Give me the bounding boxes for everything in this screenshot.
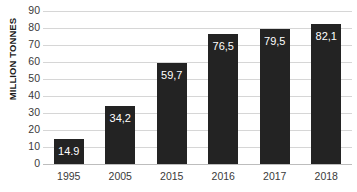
bar-data-label: 76,5 <box>208 40 238 52</box>
bar-data-label: 34,2 <box>105 112 135 124</box>
x-axis-tick-label: 2017 <box>249 170 301 183</box>
gridline <box>43 164 352 165</box>
y-axis-tick-label: 20 <box>18 124 40 135</box>
x-axis-tick-label: 2005 <box>95 170 147 183</box>
x-axis-tick-label: 1995 <box>43 170 95 183</box>
y-axis-tick-label: 80 <box>18 22 40 33</box>
y-axis-tick-label: 50 <box>18 73 40 84</box>
bar-data-label: 82,1 <box>311 30 341 42</box>
y-axis-tick-label: 60 <box>18 56 40 67</box>
x-axis-tick-label: 2018 <box>301 170 353 183</box>
y-axis-tick-label: 30 <box>18 107 40 118</box>
bar: 59,7 <box>157 63 187 164</box>
plot-area: 14.934,259,776,579,582,1 <box>43 11 352 164</box>
bar: 14.9 <box>54 139 84 164</box>
y-axis-tick-label: 0 <box>18 158 40 169</box>
bar: 82,1 <box>311 24 341 164</box>
bar-data-label: 14.9 <box>54 145 84 157</box>
x-axis-tick-label: 2015 <box>146 170 198 183</box>
x-axis-tick-label: 2016 <box>198 170 250 183</box>
y-axis-tick-label: 40 <box>18 90 40 101</box>
bars-group: 14.934,259,776,579,582,1 <box>43 11 352 164</box>
y-axis-tick-label: 70 <box>18 39 40 50</box>
bar: 34,2 <box>105 106 135 164</box>
bar-data-label: 79,5 <box>260 35 290 47</box>
y-axis-tick-label: 10 <box>18 141 40 152</box>
bar-chart: MILLION TONNES 0102030405060708090 14.93… <box>0 0 357 192</box>
x-axis-tick-labels: 199520052015201620172018 <box>43 170 352 186</box>
bar-data-label: 59,7 <box>157 69 187 81</box>
bar: 76,5 <box>208 34 238 164</box>
y-axis-tick-labels: 0102030405060708090 <box>18 0 40 192</box>
bar: 79,5 <box>260 29 290 164</box>
y-axis-tick-label: 90 <box>18 5 40 16</box>
